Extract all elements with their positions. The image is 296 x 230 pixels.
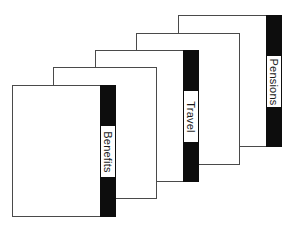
- tab-label-benefits: Benefits: [102, 131, 114, 172]
- tab-label-pensions: Pensions: [268, 58, 280, 105]
- folder-tab-benefits: Benefits: [100, 85, 116, 217]
- folder-benefits: Benefits: [12, 85, 116, 217]
- folder-tab-travel: Travel: [183, 50, 199, 182]
- tab-label-box: Travel: [184, 91, 198, 142]
- tab-label-box: Benefits: [101, 126, 115, 177]
- tab-label-travel: Travel: [185, 101, 197, 132]
- folder-tab-pensions: Pensions: [266, 15, 282, 147]
- tab-label-box: Pensions: [267, 56, 281, 107]
